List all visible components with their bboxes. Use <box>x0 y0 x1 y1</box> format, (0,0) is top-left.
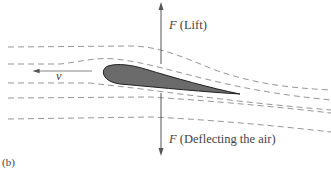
lift-label: F (Lift) <box>169 18 207 33</box>
airfoil-diagram <box>0 0 331 172</box>
airfoil <box>103 65 240 94</box>
panel-label: (b) <box>2 156 15 168</box>
velocity-label: v <box>56 69 62 84</box>
deflect-label: F (Deflecting the air) <box>169 132 276 147</box>
streamlines <box>8 46 331 132</box>
